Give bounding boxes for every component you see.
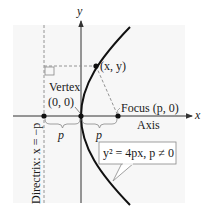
y-axis-label: y xyxy=(76,4,83,18)
distance-label-right: p xyxy=(95,128,102,142)
focus-point xyxy=(115,113,120,118)
vertex-title: Vertex xyxy=(49,80,80,94)
point-label: (x, y) xyxy=(100,59,126,73)
vertex-point xyxy=(78,113,83,118)
parabola-diagram: x y p p (x, y) Vertex (0, 0) Focus (p, 0… xyxy=(0,0,211,217)
axis-label: Axis xyxy=(137,118,160,132)
vertex-coords: (0, 0) xyxy=(48,95,74,109)
equation-label: y² = 4px, p ≠ 0 xyxy=(103,146,174,160)
x-axis-label: x xyxy=(194,108,201,122)
distance-label-left: p xyxy=(57,128,64,142)
directrix-point xyxy=(41,113,46,118)
focus-label: Focus (p, 0) xyxy=(121,101,179,115)
directrix-label: Directrix: x = −p xyxy=(29,123,43,204)
curve-point xyxy=(93,63,98,68)
